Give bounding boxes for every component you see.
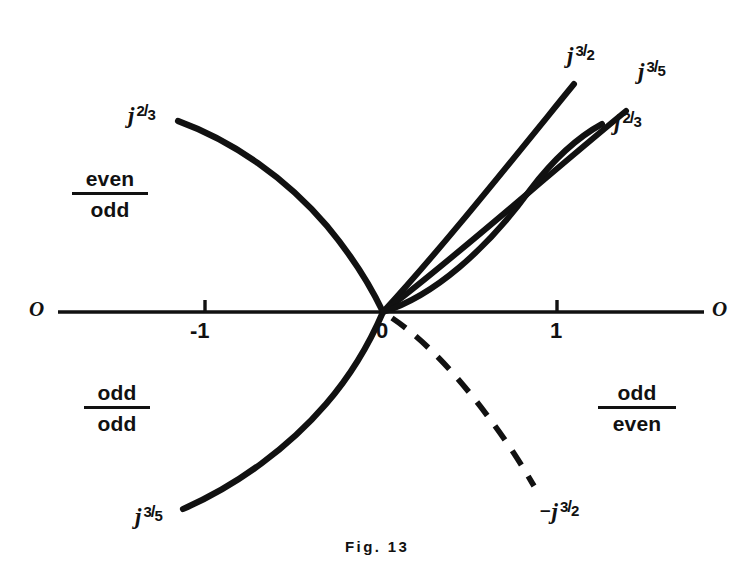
curve-label-top-right-j23-symbol: j [614, 110, 620, 135]
curve-label-top-right-j23: j2/3 [613, 111, 642, 134]
exp-denominator: 3 [147, 106, 155, 123]
quadrant-lower-right-divider [598, 406, 676, 409]
quadrant-upper-left-numerator: even [72, 168, 148, 191]
curve-label-bottom-right-minus-j32-symbol: j [552, 499, 558, 524]
tick-label-minus-one: -1 [190, 320, 210, 342]
exp-denominator: 3 [633, 113, 641, 130]
quadrant-label-lower-left: odd odd [84, 382, 150, 434]
plot-canvas [0, 0, 755, 580]
axis-right-end-label: O [712, 299, 727, 320]
exp-denominator: 2 [586, 46, 594, 63]
curve-right-j32 [383, 84, 574, 312]
curve-label-upper-left-j23-exponent: 2/3 [136, 102, 155, 119]
curve-label-top-right-j32: j3/2 [566, 44, 595, 67]
quadrant-upper-left-denominator: odd [72, 197, 148, 220]
curve-label-top-right-j35-symbol: j [638, 59, 644, 84]
curve-right-j35 [383, 111, 626, 312]
curve-label-bottom-right-minus-j32-sign: – [540, 499, 551, 520]
curve-label-upper-left-j23-symbol: j [128, 103, 134, 128]
quadrant-upper-left-divider [72, 192, 148, 195]
quadrant-lower-left-numerator: odd [84, 382, 150, 405]
exp-denominator: 2 [571, 502, 579, 519]
curve-upper-left-j23 [178, 121, 383, 312]
curve-label-bottom-left-j35-exponent: 3/5 [143, 503, 162, 520]
curve-label-upper-left-j23: j2/3 [127, 104, 156, 127]
quadrant-label-upper-left: even odd [72, 168, 148, 220]
exp-denominator: 5 [657, 62, 665, 79]
curve-label-top-right-j35-exponent: 3/5 [646, 58, 665, 75]
curve-label-top-right-j32-exponent: 3/2 [575, 42, 594, 59]
quadrant-lower-right-numerator: odd [598, 382, 676, 405]
curve-lower-left-j35 [183, 312, 383, 509]
curve-label-bottom-right-minus-j32-exponent: 3/2 [560, 498, 579, 515]
curve-label-top-right-j35: j3/5 [637, 60, 666, 83]
tick-label-one: 1 [550, 320, 562, 342]
curve-label-bottom-left-j35-symbol: j [135, 504, 141, 529]
tick-label-zero: 0 [376, 320, 388, 342]
curve-label-top-right-j32-symbol: j [567, 43, 573, 68]
axis-left-end-label: O [29, 299, 44, 320]
figure-13-regge-trajectory-plot: O O -1 0 1 even odd odd odd odd even j2/… [0, 0, 755, 580]
exp-denominator: 5 [154, 507, 162, 524]
quadrant-lower-left-denominator: odd [84, 411, 150, 434]
curve-label-bottom-right-minus-j32: –j3/2 [540, 500, 579, 523]
quadrant-lower-left-divider [84, 406, 150, 409]
quadrant-lower-right-denominator: even [598, 411, 676, 434]
curve-label-bottom-left-j35: j3/5 [134, 505, 163, 528]
curve-label-top-right-j23-exponent: 2/3 [622, 109, 641, 126]
curve-dashed-lower-right-minus-j32 [392, 318, 534, 486]
figure-caption: Fig. 13 [345, 539, 409, 554]
quadrant-label-lower-right: odd even [598, 382, 676, 434]
